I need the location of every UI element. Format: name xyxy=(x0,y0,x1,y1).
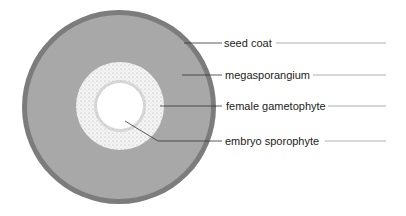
label-seed-coat: seed coat xyxy=(224,37,272,49)
label-female-gametophyte: female gametophyte xyxy=(226,100,326,112)
seed-diagram xyxy=(0,0,406,216)
label-megasporangium: megasporangium xyxy=(225,69,310,81)
embryo-sporophyte-layer xyxy=(97,83,143,129)
label-embryo-sporophyte: embryo sporophyte xyxy=(225,135,319,147)
